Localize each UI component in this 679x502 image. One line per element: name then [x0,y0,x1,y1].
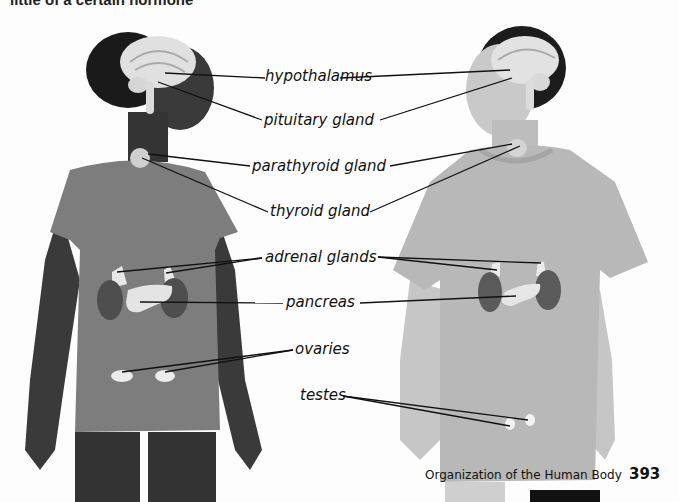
boy-left-kidney [478,272,502,312]
label-adrenal-glands: adrenal glands [265,250,376,265]
girl-figure [25,32,262,502]
label-ovaries: ovaries [295,342,350,357]
label-pituitary-gland: pituitary gland [264,113,374,128]
footer-section-title: Organization of the Human Body [425,468,622,482]
girl-left-kidney [97,280,123,320]
label-parathyroid-gland: parathyroid gland [252,159,386,174]
textbook-page: little of a certain hormone [0,0,679,502]
boy-brain [491,36,559,84]
label-thyroid-gland: thyroid gland [270,204,370,219]
label-testes: testes [300,388,346,403]
footer-page-number: 393 [629,465,660,483]
label-hypothalamus: hypothalamus [265,69,372,84]
label-pancreas: pancreas [286,295,355,310]
girl-thyroid [130,148,150,168]
boy-testis-left [505,418,515,430]
boy-figure [393,26,648,502]
